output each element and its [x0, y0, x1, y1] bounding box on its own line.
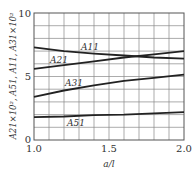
y-tick-5: 5	[25, 71, 31, 82]
curve-label-a11: A11	[80, 42, 99, 52]
curve-label-a31: A31	[64, 78, 83, 88]
x-tick-1.5: 1.5	[101, 143, 117, 154]
curve-label-a21: A21	[49, 55, 68, 65]
y-tick-10: 10	[18, 8, 31, 19]
x-axis-label: a/l	[103, 159, 114, 169]
y-axis-label: A21×10², A51, A11, A31×10²	[8, 12, 18, 140]
curve-label-a51: A51	[66, 118, 85, 128]
chart: 1.0 1.5 2.0 0 5 10 a/l A21×10², A51, A11…	[0, 0, 196, 175]
x-tick-2.0: 2.0	[176, 143, 192, 154]
y-tick-0: 0	[25, 134, 31, 145]
